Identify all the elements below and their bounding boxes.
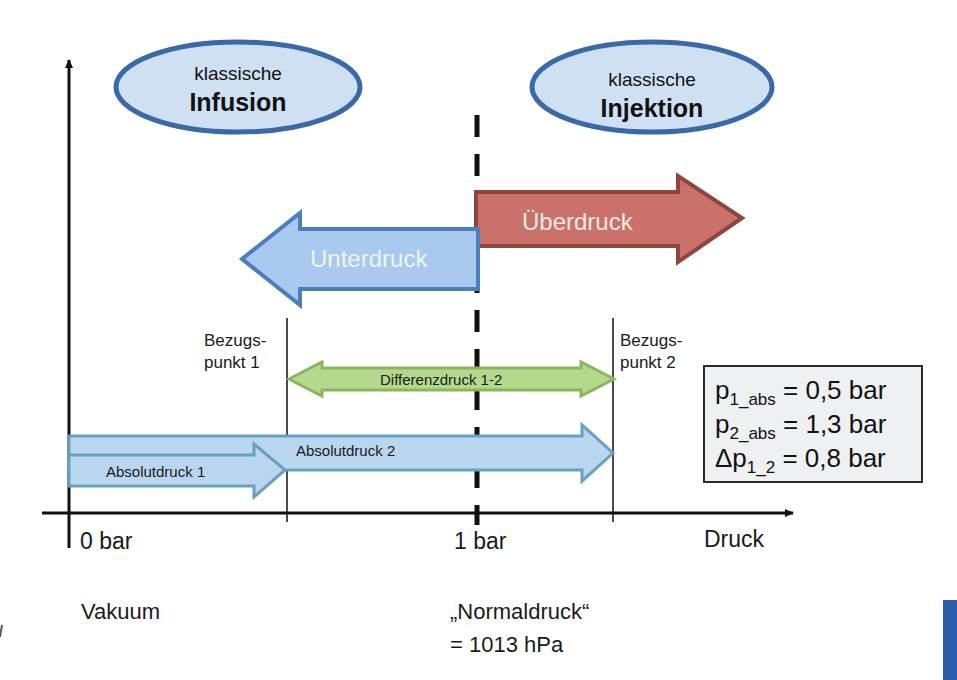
reference-point-1-label: Bezugs- punkt 1 xyxy=(204,330,266,374)
pressure-diagram: klassische Infusion klassische Injektion… xyxy=(0,0,957,680)
reference-point-1-line2: punkt 1 xyxy=(204,352,266,374)
formula-value: = 1,3 bar xyxy=(776,409,887,439)
vacuum-label: Vakuum xyxy=(81,601,160,623)
injektion-label: klassische Injektion xyxy=(552,68,752,124)
formula-symbol: p xyxy=(715,375,729,405)
reference-point-2-label: Bezugs- punkt 2 xyxy=(620,330,682,374)
tick-label-1-bar: 1 bar xyxy=(454,530,506,553)
infusion-label: klassische Infusion xyxy=(138,62,338,118)
reference-point-1-line1: Bezugs- xyxy=(204,330,266,352)
ueberdruck-label: Überdruck xyxy=(522,210,633,234)
reference-point-2-line2: punkt 2 xyxy=(620,352,682,374)
formula-subscript: 1_2 xyxy=(747,458,775,477)
slide-edge-bar xyxy=(943,600,957,680)
formula-p2-abs: p2_abs = 1,3 bar xyxy=(715,407,921,441)
injektion-label-line2: Injektion xyxy=(552,92,752,124)
unterdruck-label: Unterdruck xyxy=(310,247,427,271)
normal-pressure-label: „Normaldruck“ xyxy=(450,601,589,623)
formula-value: = 0,8 bar xyxy=(775,443,886,473)
reference-point-2-line1: Bezugs- xyxy=(620,330,682,352)
absolutdruck-1-label: Absolutdruck 1 xyxy=(106,464,205,479)
infusion-label-line1: klassische xyxy=(138,62,338,86)
injektion-label-line1: klassische xyxy=(552,68,752,92)
formula-symbol: Δp xyxy=(715,443,747,473)
tick-label-0-bar: 0 bar xyxy=(80,530,132,553)
differenzdruck-label: Differenzdruck 1-2 xyxy=(380,372,502,387)
formula-p1-abs: p1_abs = 0,5 bar xyxy=(715,373,921,407)
formula-box: p1_abs = 0,5 bar p2_abs = 1,3 bar Δp1_2 … xyxy=(703,365,923,483)
normal-pressure-value: = 1013 hPa xyxy=(450,634,563,656)
formula-symbol: p xyxy=(715,409,729,439)
formula-value: = 0,5 bar xyxy=(776,375,887,405)
x-axis-label: Druck xyxy=(704,528,764,551)
formula-delta-p: Δp1_2 = 0,8 bar xyxy=(715,441,921,475)
absolutdruck-2-label: Absolutdruck 2 xyxy=(296,443,395,458)
infusion-label-line2: Infusion xyxy=(138,86,338,118)
